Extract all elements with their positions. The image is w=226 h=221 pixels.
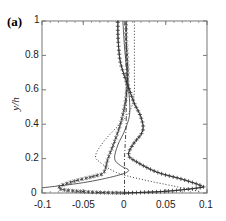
data-curves <box>42 20 206 195</box>
plot-area <box>0 0 226 221</box>
curve-solid-plus <box>118 21 204 193</box>
curve-dashed-star <box>59 21 128 193</box>
figure: (a) y/h 0 0.2 0.4 0.6 0.8 1 -0.1 -0.05 0… <box>0 0 226 221</box>
